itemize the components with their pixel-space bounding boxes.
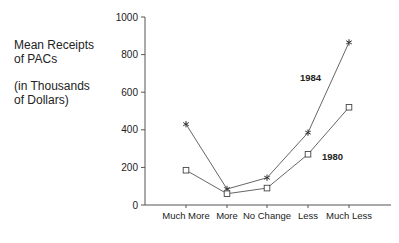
series-line-1984	[186, 42, 349, 189]
square-marker-icon	[346, 104, 352, 110]
y-tick-label: 0	[132, 200, 138, 211]
x-tick-label: No Change	[243, 210, 291, 221]
x-tick-label: More	[216, 210, 238, 221]
y-tick-label: 600	[121, 87, 138, 98]
series-label-1984: 1984	[300, 72, 322, 83]
y-tick-label: 800	[121, 49, 138, 60]
square-marker-icon	[264, 185, 270, 191]
y-tick-label: 400	[121, 124, 138, 135]
y-tick-label: 1000	[116, 12, 139, 23]
y-tick-label: 200	[121, 162, 138, 173]
square-marker-icon	[224, 191, 230, 197]
series-group: 19841980	[183, 39, 352, 196]
asterisk-marker-icon	[346, 39, 352, 45]
x-tick-label: Much Less	[326, 210, 372, 221]
square-marker-icon	[183, 167, 189, 173]
square-marker-icon	[305, 151, 311, 157]
x-tick-label: Much More	[162, 210, 210, 221]
x-tick-label: Less	[298, 210, 318, 221]
series-label-1980: 1980	[322, 151, 343, 162]
line-chart: 02004006008001000Much MoreMoreNo ChangeL…	[0, 0, 399, 243]
